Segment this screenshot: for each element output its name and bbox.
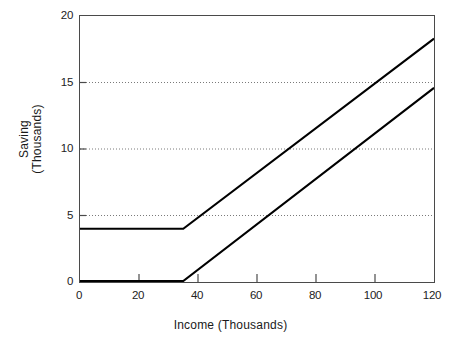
x-tick-label-120: 120 <box>412 289 452 301</box>
y-tick-label-20: 20 <box>39 9 73 21</box>
y-tick-label-10: 10 <box>39 142 73 154</box>
y-tick-label-5: 5 <box>39 209 73 221</box>
x-tick-label-80: 80 <box>295 289 335 301</box>
y-axis-title-line2: (Thousands) <box>31 84 44 194</box>
plot-canvas <box>80 16 434 282</box>
line-chart: 0 5 10 15 20 0 20 40 60 80 100 120 Incom… <box>0 0 461 357</box>
x-tick-label-60: 60 <box>236 289 276 301</box>
series-line-upper <box>80 39 434 229</box>
y-tick-label-15: 15 <box>39 76 73 88</box>
series-line-lower <box>80 88 434 281</box>
y-axis-title: Saving (Thousands) <box>18 84 44 194</box>
y-axis-ticks <box>80 83 86 216</box>
x-tick-label-0: 0 <box>59 289 99 301</box>
gridlines <box>80 83 434 216</box>
y-axis-title-line1: Saving <box>17 120 31 158</box>
x-tick-label-40: 40 <box>177 289 217 301</box>
x-axis-title: Income (Thousands) <box>0 318 461 332</box>
plot-area <box>79 15 435 283</box>
x-tick-label-20: 20 <box>118 289 158 301</box>
y-tick-label-0: 0 <box>39 275 73 287</box>
x-tick-label-100: 100 <box>353 289 393 301</box>
